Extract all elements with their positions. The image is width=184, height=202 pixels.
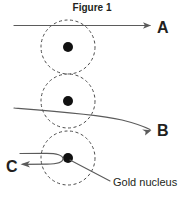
rutherford-scattering-diagram: Figure 1 A B [0, 0, 184, 202]
trajectory-b-line [14, 108, 150, 130]
nucleus-dot-top [63, 42, 73, 52]
trajectory-a-group: A [14, 19, 169, 36]
figure-title: Figure 1 [73, 2, 112, 13]
nucleus-dot-middle [63, 96, 73, 106]
trajectory-c-label: C [6, 158, 18, 175]
nucleus-group-middle [41, 74, 95, 128]
trajectory-c-group: C [6, 153, 63, 175]
figure-container: Figure 1 A B [0, 0, 184, 202]
trajectory-b-group: B [14, 108, 169, 139]
gold-nucleus-callout-group: Gold nucleus [70, 160, 178, 188]
nucleus-group-top [41, 20, 95, 74]
gold-nucleus-label: Gold nucleus [113, 176, 178, 188]
nucleus-group-bottom [41, 131, 95, 185]
trajectory-b-label: B [157, 122, 169, 139]
gold-nucleus-leader-line [70, 160, 110, 181]
nucleus-dot-bottom [63, 153, 73, 163]
trajectory-b-arrowhead-icon [142, 130, 151, 136]
trajectory-a-label: A [157, 19, 169, 36]
